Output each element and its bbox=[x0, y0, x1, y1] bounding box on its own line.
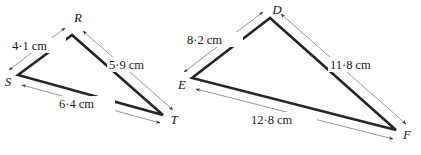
triangle-rst: 4·1 cm 5·9 cm 6·4 cm R S T bbox=[5, 10, 179, 127]
dimension-label-st: 6·4 cm bbox=[59, 97, 94, 111]
dimension-label-df: 11·8 cm bbox=[330, 58, 371, 72]
vertex-label-r: R bbox=[73, 10, 82, 25]
vertex-label-s: S bbox=[5, 74, 12, 89]
geometry-figure: 4·1 cm 5·9 cm 6·4 cm R S T 8·2 cm bbox=[0, 0, 421, 155]
figure-canvas: 4·1 cm 5·9 cm 6·4 cm R S T 8·2 cm bbox=[0, 0, 421, 155]
vertex-label-t: T bbox=[170, 112, 178, 127]
dimension-label-ef: 12·8 cm bbox=[251, 113, 293, 127]
vertex-label-f: F bbox=[402, 127, 412, 142]
vertex-label-e: E bbox=[177, 77, 186, 92]
vertex-label-d: D bbox=[271, 2, 282, 17]
triangle-def: 8·2 cm 11·8 cm 12·8 cm D E F bbox=[177, 2, 412, 142]
dimension-label-ed: 8·2 cm bbox=[187, 33, 222, 47]
dimension-label-rt: 5·9 cm bbox=[109, 58, 144, 72]
dimension-label-sr: 4·1 cm bbox=[12, 39, 47, 53]
